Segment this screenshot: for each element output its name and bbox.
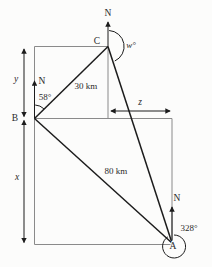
distance-label-30km: 30 km: [75, 81, 98, 91]
bearings-diagram: N N N C B A w° 58° 328° 30 km 80 km y x …: [0, 0, 212, 267]
north-label-at-b: N: [39, 76, 46, 86]
dim-label-y: y: [13, 74, 19, 84]
point-label-c: C: [94, 36, 100, 46]
angle-label-328: 328°: [180, 223, 198, 233]
distance-label-80km: 80 km: [105, 166, 128, 176]
north-label-at-a: N: [174, 193, 181, 203]
north-label-at-c: N: [105, 8, 112, 18]
angle-label-58: 58°: [39, 92, 52, 102]
dim-label-x: x: [14, 172, 20, 182]
dim-label-z: z: [137, 97, 142, 107]
angle-label-w: w°: [126, 40, 136, 50]
point-label-b: B: [12, 113, 18, 123]
point-label-a: A: [170, 241, 177, 251]
